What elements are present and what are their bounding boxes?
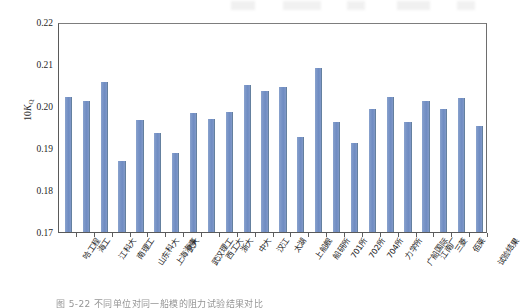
x-axis-tick-label: 汉江	[275, 237, 290, 254]
plot-area	[58, 23, 487, 233]
bar	[279, 87, 286, 232]
bar	[440, 109, 447, 232]
bar	[297, 137, 304, 232]
bar	[118, 161, 125, 232]
x-axis-tick	[112, 233, 113, 237]
bar	[315, 68, 322, 232]
x-axis-tick	[273, 233, 274, 237]
x-axis-tick-label: 中大	[258, 237, 273, 254]
scan-artifact-top	[225, 1, 500, 10]
x-axis-tick	[219, 233, 220, 237]
bar	[404, 122, 411, 232]
y-axis-tick-labels: 0.220.210.200.190.180.17	[24, 0, 53, 308]
bar	[333, 122, 340, 232]
y-axis-tick-label: 0.17	[24, 228, 53, 238]
x-axis-tick	[76, 233, 77, 237]
y-axis-tick-label: 0.18	[24, 186, 53, 196]
bar	[172, 153, 179, 232]
x-axis-tick	[487, 233, 488, 237]
bar	[208, 119, 215, 232]
bar	[387, 97, 394, 232]
x-axis-tick-label: 701所	[350, 237, 369, 260]
x-axis-tick	[201, 233, 202, 237]
y-axis-tick-label: 0.20	[24, 102, 53, 112]
bar	[190, 113, 197, 232]
x-axis-tick-labels: 哈工程海工江科大南理工山东科大上海海事武大武汉理工西工大浙大中大汉江太湖上船舰船…	[58, 237, 504, 303]
bar	[422, 101, 429, 232]
bar	[226, 112, 233, 232]
x-axis-tick-label: 太湖	[293, 237, 308, 254]
x-axis-tick-label: 上船舰	[315, 237, 335, 261]
bar	[261, 91, 268, 232]
x-axis-tick-label: 佰莱	[472, 237, 487, 254]
bar	[154, 133, 161, 232]
bar	[65, 97, 72, 232]
x-axis-tick-label: 试验结果	[497, 237, 521, 267]
x-axis-tick	[290, 233, 291, 237]
x-axis-tick	[255, 233, 256, 237]
x-axis-tick	[433, 233, 434, 237]
x-axis-tick	[469, 233, 470, 237]
x-axis-tick	[165, 233, 166, 237]
x-axis-tick-label: 704所	[386, 237, 405, 260]
figure-caption: 图 5-22 不同单位对同一船模的阻力试验结果对比	[56, 297, 456, 308]
bar	[136, 120, 143, 232]
x-axis-tick-label: 江科大	[118, 237, 138, 261]
x-axis-tick-label: 力学所	[404, 237, 424, 261]
bar	[476, 126, 483, 232]
bar	[369, 109, 376, 232]
x-axis-tick-label: 南理工	[136, 237, 156, 261]
y-axis-tick-label: 0.19	[24, 144, 53, 154]
x-axis-tick-label: 702所	[368, 237, 387, 260]
bar	[101, 82, 108, 232]
x-axis-tick	[183, 233, 184, 237]
y-axis-tick-label: 0.22	[24, 18, 53, 28]
x-axis-tick	[308, 233, 309, 237]
bar	[244, 85, 251, 232]
bar	[458, 98, 465, 232]
bars-layer	[59, 24, 486, 232]
bar	[351, 143, 358, 232]
x-axis-tick-label: 船研所	[333, 237, 353, 261]
bar	[83, 101, 90, 232]
y-axis-tick-label: 0.21	[24, 60, 53, 70]
